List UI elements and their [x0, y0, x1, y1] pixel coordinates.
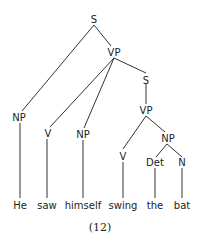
node-n: N — [178, 157, 185, 168]
node-det: Det — [146, 157, 164, 168]
word-saw: saw — [37, 200, 57, 211]
node-np-embedded: NP — [161, 133, 175, 144]
edge-np-det — [156, 144, 167, 157]
word-he: He — [13, 200, 27, 211]
node-v-swing: V — [120, 151, 127, 162]
node-np-object: NP — [76, 129, 90, 140]
syntax-tree: S VP S VP NP V NP V NP Det N He saw hims… — [0, 0, 199, 242]
node-s-embedded: S — [143, 75, 149, 86]
edge-s-vp — [94, 25, 111, 46]
edge-s-np — [22, 25, 94, 111]
node-s-root: S — [91, 14, 97, 25]
word-swing: swing — [109, 200, 138, 211]
figure-caption: (12) — [89, 221, 112, 234]
edge-vp2-v — [123, 116, 146, 149]
edge-vp-s — [114, 58, 146, 73]
edge-vp-v — [50, 58, 114, 127]
node-np-subject: NP — [12, 112, 26, 123]
word-bat: bat — [174, 200, 190, 211]
node-vp-embedded: VP — [140, 105, 153, 116]
edge-np-n — [167, 144, 182, 157]
node-v-saw: V — [45, 128, 52, 139]
edge-vp2-np — [146, 116, 165, 132]
node-vp-main: VP — [108, 47, 121, 58]
word-himself: himself — [65, 200, 102, 211]
word-the: the — [147, 200, 163, 211]
edge-vp-np — [84, 58, 114, 128]
